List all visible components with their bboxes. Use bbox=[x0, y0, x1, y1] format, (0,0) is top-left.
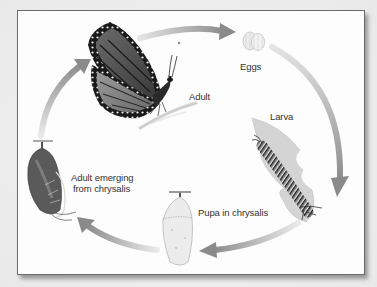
emerging-adult-illustration bbox=[28, 140, 76, 220]
arrow-pupa-to-emerging bbox=[77, 217, 157, 250]
eggs-illustration bbox=[243, 32, 265, 51]
label-adult: Adult bbox=[189, 91, 210, 102]
label-emerging: Adult emerging from chrysalis bbox=[71, 172, 134, 194]
life-cycle-artwork bbox=[0, 0, 377, 287]
label-emerging-line2: from chrysalis bbox=[71, 183, 134, 194]
arrow-emerging-to-adult bbox=[41, 59, 91, 136]
arrow-adult-to-eggs bbox=[140, 23, 236, 40]
label-eggs: Eggs bbox=[240, 61, 261, 72]
label-emerging-line1: Adult emerging bbox=[71, 172, 134, 183]
label-larva: Larva bbox=[270, 111, 293, 122]
label-pupa: Pupa in chrysalis bbox=[198, 207, 268, 218]
arrow-larva-to-pupa bbox=[199, 223, 298, 258]
pupa-chrysalis-illustration bbox=[163, 191, 193, 265]
